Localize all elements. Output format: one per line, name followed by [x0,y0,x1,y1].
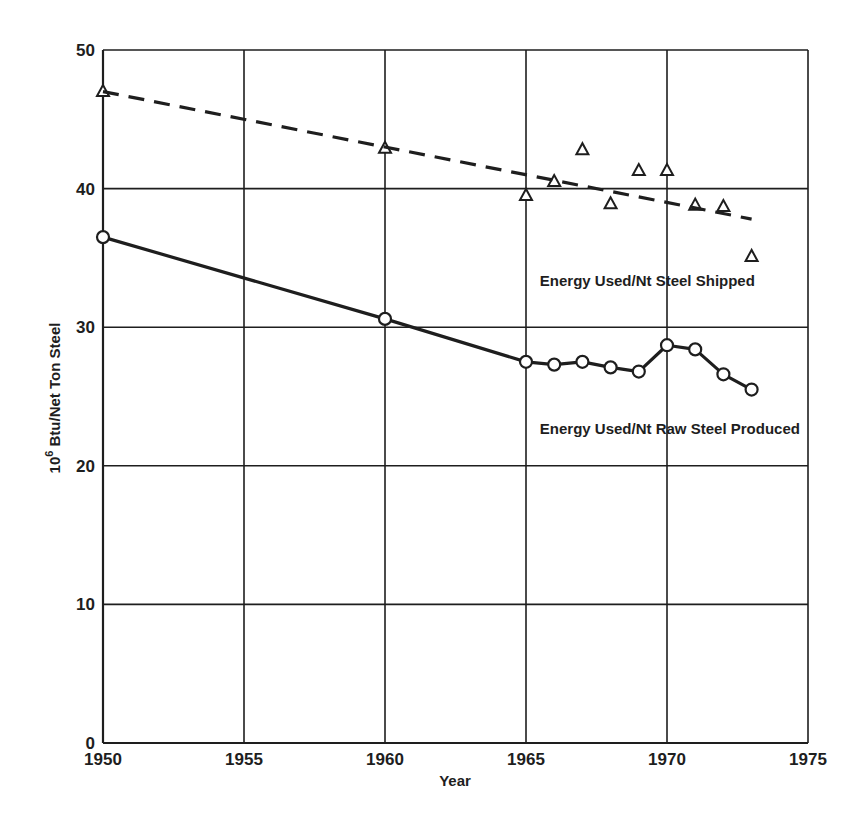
y-axis-label-base: 10 [46,457,63,474]
y-tick-label: 50 [76,41,95,60]
x-tick-label: 1965 [507,750,545,769]
circle-marker [576,356,588,368]
x-tick-label: 1960 [366,750,404,769]
circle-marker [520,356,532,368]
grid-lines [103,50,808,743]
circle-marker [717,368,729,380]
triangle-marker [746,250,758,261]
line-chart: 195019551960196519701975 01020304050 Ene… [0,0,863,821]
circle-marker [746,384,758,396]
triangle-marker [661,164,673,175]
x-tick-label: 1975 [789,750,827,769]
triangle-marker [97,85,109,96]
triangle-marker [520,189,532,200]
series-labels: Energy Used/Nt Steel ShippedEnergy Used/… [540,272,800,437]
x-tick-label: 1955 [225,750,263,769]
triangle-marker [605,197,617,208]
y-tick-label: 40 [76,180,95,199]
y-tick-label: 20 [76,457,95,476]
series-label: Energy Used/Nt Steel Shipped [540,272,755,289]
circle-marker [633,366,645,378]
trend-line-dashed [103,92,752,220]
circle-marker [661,339,673,351]
y-axis-label: 106 Btu/Net Ton Steel [43,323,63,474]
y-axis-label-rest: Btu/Net Ton Steel [46,323,63,451]
series-line [103,237,752,389]
circle-marker [97,231,109,243]
x-tick-labels: 195019551960196519701975 [84,750,827,769]
y-tick-label: 0 [86,734,95,753]
circle-marker [605,361,617,373]
y-tick-label: 10 [76,595,95,614]
circle-marker [548,359,560,371]
triangle-marker [576,143,588,154]
axes [103,50,808,743]
circle-marker [379,313,391,325]
series-label: Energy Used/Nt Raw Steel Produced [540,420,800,437]
data-series [97,85,758,396]
triangle-marker [633,164,645,175]
x-axis-label: Year [439,772,471,789]
y-tick-label: 30 [76,318,95,337]
x-tick-label: 1970 [648,750,686,769]
circle-marker [689,343,701,355]
y-tick-labels: 01020304050 [76,41,95,753]
triangle-marker [717,200,729,211]
